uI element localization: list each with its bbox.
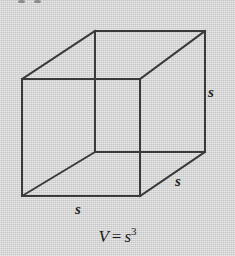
back-face-edges: [95, 31, 205, 152]
cube-wireframe: [0, 0, 235, 256]
formula-exponent: 3: [131, 225, 137, 237]
depth-edge-bottom-left: [22, 152, 95, 196]
edge-label-bottom: s: [75, 202, 81, 217]
edge-label-depth: s: [175, 174, 181, 189]
depth-edge-top-right: [140, 31, 205, 79]
edge-label-right: s: [208, 85, 214, 100]
volume-formula: V=s3: [0, 228, 235, 245]
depth-edge-top-left: [22, 31, 95, 79]
cube-figure: s s s V=s3: [0, 0, 235, 256]
formula-equals: =: [112, 227, 122, 246]
front-face-edges: [22, 79, 140, 196]
depth-edge-bottom-right: [140, 152, 205, 196]
formula-variable: V: [98, 227, 108, 246]
